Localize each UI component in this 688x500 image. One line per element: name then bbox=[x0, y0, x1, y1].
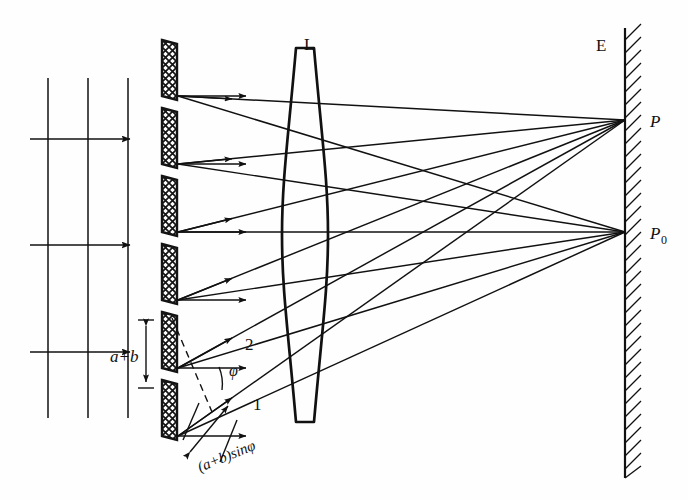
ray-label-1: 1 bbox=[253, 395, 262, 414]
optics-diagram-svg: a+b (a+b)sinφ φ 2 1 L E P P 0 bbox=[0, 0, 688, 500]
grating-strip-2 bbox=[162, 108, 177, 168]
grating-strip-1 bbox=[162, 40, 177, 100]
focus-point-P0-label: P bbox=[649, 224, 660, 243]
grating-period-label: a+b bbox=[110, 347, 138, 366]
ray-label-2: 2 bbox=[245, 335, 254, 354]
grating-strip-5 bbox=[162, 312, 177, 372]
grating-strip-6 bbox=[162, 380, 177, 440]
lens-label: L bbox=[304, 35, 314, 54]
screen-label: E bbox=[596, 36, 606, 55]
focus-point-P-label: P bbox=[649, 112, 660, 131]
grating-strip-4 bbox=[162, 244, 177, 304]
focus-point-P0-subscript: 0 bbox=[661, 233, 667, 247]
figure-canvas: a+b (a+b)sinφ φ 2 1 L E P P 0 bbox=[0, 0, 688, 500]
phi-angle-label: φ bbox=[229, 362, 238, 380]
grating-strip-3 bbox=[162, 176, 177, 236]
